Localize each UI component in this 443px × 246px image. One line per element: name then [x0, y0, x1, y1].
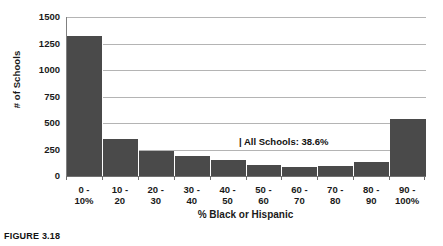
x-axis-tick-label: 90 -100% — [389, 184, 425, 206]
figure-caption: FIGURE 3.18 — [4, 231, 60, 241]
bar — [318, 166, 354, 176]
plot-area: | All Schools: 38.6% — [66, 17, 426, 176]
x-tick-cell — [389, 176, 425, 182]
x-tick-cell — [281, 176, 317, 182]
bar-cell — [67, 17, 103, 176]
x-axis-tick-label-line: 70 - — [317, 184, 353, 195]
x-axis-tick-label-line: 80 — [317, 195, 353, 206]
x-axis-tick-label: 30 -40 — [174, 184, 210, 206]
bar-series — [67, 17, 426, 176]
x-axis-tick-label-line: 50 - — [246, 184, 282, 195]
x-tick-cell — [66, 176, 102, 182]
x-axis-tick-mark — [389, 176, 390, 180]
x-axis-tick-mark — [281, 176, 282, 180]
figure-container: # of Schools 0250500750100012501500 | Al… — [0, 0, 443, 246]
x-axis-tick-mark — [66, 176, 67, 180]
x-axis-tick-label: 80 -90 — [353, 184, 389, 206]
bar — [139, 151, 175, 176]
bar-cell — [282, 17, 318, 176]
x-tick-cell — [317, 176, 353, 182]
bar — [282, 167, 318, 176]
x-axis-tick-label-line: 60 — [246, 195, 282, 206]
x-axis-tick-label: 20 -30 — [138, 184, 174, 206]
x-tick-cell — [210, 176, 246, 182]
y-axis-tick-label: 1000 — [20, 65, 60, 75]
x-axis-tick-label-line: 0 - — [66, 184, 102, 195]
x-axis-tick-label: 0 -10% — [66, 184, 102, 206]
x-axis-tick-label: 10 -20 — [102, 184, 138, 206]
x-axis-tick-label-line: 30 - — [174, 184, 210, 195]
x-axis-tick-mark — [210, 176, 211, 180]
y-axis-tick-label: 750 — [20, 92, 60, 102]
all-schools-annotation: | All Schools: 38.6% — [239, 136, 328, 147]
x-axis-tick-label: 60 -70 — [281, 184, 317, 206]
x-axis-tick-label-line: 20 — [102, 195, 138, 206]
x-axis-tick-label: 40 -50 — [210, 184, 246, 206]
x-axis-tick-label-line: 40 — [174, 195, 210, 206]
bar — [390, 119, 426, 176]
bar-cell — [211, 17, 247, 176]
y-axis-tick-label: 1500 — [20, 12, 60, 22]
x-axis-tick-label: 50 -60 — [246, 184, 282, 206]
bar-cell — [175, 17, 211, 176]
x-axis-title: % Black or Hispanic — [66, 209, 425, 220]
x-tick-cell — [246, 176, 282, 182]
x-axis-tick-mark — [174, 176, 175, 180]
x-tick-cell — [102, 176, 138, 182]
bar-cell — [318, 17, 354, 176]
x-axis-tick-label-line: 30 — [138, 195, 174, 206]
bar — [175, 156, 211, 176]
y-axis-tick-label: 1250 — [20, 39, 60, 49]
x-axis-tick-label-line: 50 — [210, 195, 246, 206]
x-axis-tick-mark — [424, 176, 425, 180]
x-axis-tick-label-line: 90 - — [389, 184, 425, 195]
x-tick-cell — [353, 176, 389, 182]
bar-cell — [139, 17, 175, 176]
x-axis-tick-label-line: 100% — [389, 195, 425, 206]
x-axis-tick-mark — [317, 176, 318, 180]
x-axis-tick-mark — [246, 176, 247, 180]
x-axis-tick-marks — [66, 176, 425, 182]
x-axis-tick-label-line: 90 — [353, 195, 389, 206]
x-axis-tick-label-line: 20 - — [138, 184, 174, 195]
bar-cell — [390, 17, 426, 176]
x-tick-cell — [138, 176, 174, 182]
bar-cell — [103, 17, 139, 176]
x-axis-tick-label-line: 40 - — [210, 184, 246, 195]
y-axis-tick-label: 250 — [20, 145, 60, 155]
bar — [67, 36, 103, 176]
bar-cell — [354, 17, 390, 176]
x-axis-tick-label-line: 60 - — [281, 184, 317, 195]
bar — [354, 162, 390, 176]
y-axis-tick-label: 500 — [20, 118, 60, 128]
x-tick-cell — [174, 176, 210, 182]
x-axis-tick-mark — [353, 176, 354, 180]
x-axis-tick-labels: 0 -10%10 -2020 -3030 -4040 -5050 -6060 -… — [66, 184, 425, 206]
y-axis-tick-label: 0 — [20, 171, 60, 181]
bar — [247, 165, 283, 176]
x-axis-tick-label-line: 10% — [66, 195, 102, 206]
bar-cell — [247, 17, 283, 176]
x-axis-tick-label-line: 80 - — [353, 184, 389, 195]
bar — [103, 139, 139, 176]
x-axis-tick-label-line: 70 — [281, 195, 317, 206]
x-axis-tick-label-line: 10 - — [102, 184, 138, 195]
x-axis-tick-mark — [102, 176, 103, 180]
x-axis-tick-mark — [138, 176, 139, 180]
bar — [211, 160, 247, 176]
y-axis-tick-labels: 0250500750100012501500 — [20, 0, 60, 246]
x-axis-tick-label: 70 -80 — [317, 184, 353, 206]
